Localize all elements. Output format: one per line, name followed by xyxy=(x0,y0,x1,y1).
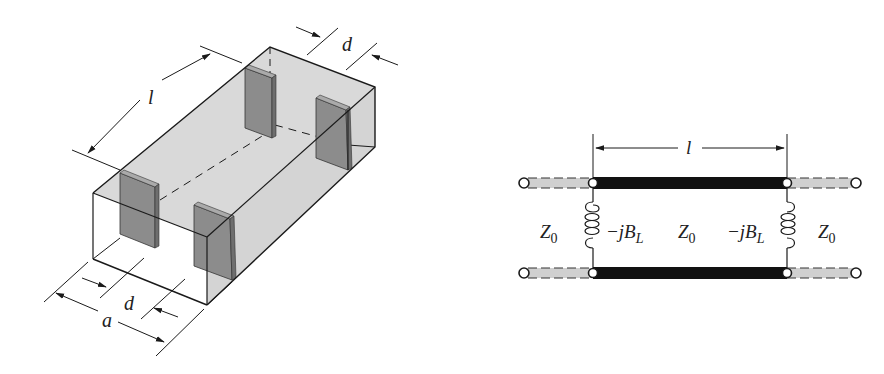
label-z0-left: Z0 xyxy=(540,221,558,246)
shunt-inductor-left xyxy=(585,183,599,273)
equivalent-circuit: l xyxy=(519,134,861,279)
label-shunt-right: −jBL xyxy=(727,221,765,246)
label-shunt-left: −jBL xyxy=(606,221,644,246)
input-terminal-top xyxy=(519,178,529,188)
label-z0-mid: Z0 xyxy=(678,221,696,246)
label-diaphragm-width-bottom: d xyxy=(124,292,135,314)
label-diaphragm-width-top: d xyxy=(342,33,353,55)
label-circuit-length: l xyxy=(686,137,691,158)
diaphragm-back-left xyxy=(245,65,276,138)
section-line-bottom xyxy=(593,267,787,279)
diaphragm-back-right xyxy=(316,95,352,170)
input-line-bottom xyxy=(524,268,593,278)
output-line-top xyxy=(787,178,856,188)
section-line-top xyxy=(593,177,787,189)
label-z0-right: Z0 xyxy=(818,221,836,246)
input-line-top xyxy=(524,178,593,188)
label-length: l xyxy=(148,86,154,108)
diaphragm-front-left xyxy=(120,170,159,248)
node-left-bottom xyxy=(589,269,598,278)
label-guide-width: a xyxy=(102,309,112,331)
input-terminal-bottom xyxy=(519,268,529,278)
node-right-bottom xyxy=(783,269,792,278)
node-left-top xyxy=(589,179,598,188)
waveguide-diagram: l d d a xyxy=(44,27,398,356)
node-right-top xyxy=(783,179,792,188)
figure-canvas: l d d a xyxy=(0,0,884,374)
output-line-bottom xyxy=(787,268,856,278)
output-terminal-bottom xyxy=(851,268,861,278)
output-terminal-top xyxy=(851,178,861,188)
shunt-inductor-right xyxy=(781,183,795,273)
